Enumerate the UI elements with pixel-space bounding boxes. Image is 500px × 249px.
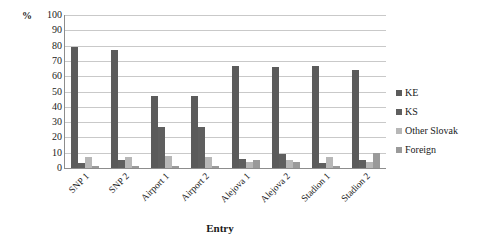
x-axis-tick: Stadion 1 bbox=[299, 171, 332, 204]
y-axis-unit-label: % bbox=[22, 10, 32, 21]
y-axis-tick: 30 bbox=[34, 117, 62, 127]
bar-group bbox=[185, 15, 225, 168]
x-axis-tick-cell: Airport 1 bbox=[144, 169, 184, 215]
bar bbox=[286, 160, 293, 168]
legend-item[interactable]: KS bbox=[396, 107, 458, 117]
bar bbox=[151, 96, 158, 168]
bar-group bbox=[226, 15, 266, 168]
bar bbox=[92, 166, 99, 168]
bar-groups bbox=[65, 15, 386, 168]
y-axis-tick-labels: 1009080706050403020100 bbox=[34, 0, 62, 249]
legend-swatch-icon bbox=[396, 109, 402, 115]
bar bbox=[312, 66, 319, 169]
bar bbox=[232, 66, 239, 169]
legend-item[interactable]: Other Slovak bbox=[396, 126, 458, 136]
bar bbox=[359, 160, 366, 168]
bar bbox=[158, 127, 165, 168]
y-axis-tick: 60 bbox=[34, 71, 62, 81]
bar-group bbox=[65, 15, 105, 168]
bar bbox=[212, 166, 219, 168]
bar bbox=[111, 50, 118, 168]
bar bbox=[326, 157, 333, 168]
bar bbox=[366, 162, 373, 168]
x-axis-tick-cell: Airport 2 bbox=[184, 169, 224, 215]
x-axis-tick: Stadion 2 bbox=[339, 171, 372, 204]
x-axis-tick-cell: Stadion 1 bbox=[305, 169, 345, 215]
x-axis-tick-cell: SNP 1 bbox=[64, 169, 104, 215]
bar bbox=[272, 67, 279, 168]
y-axis-tick: 0 bbox=[34, 163, 62, 173]
bar-group bbox=[346, 15, 386, 168]
bar bbox=[85, 157, 92, 168]
bar bbox=[373, 153, 380, 168]
x-axis-tick: Airport 2 bbox=[180, 171, 212, 203]
bar bbox=[246, 162, 253, 168]
y-axis-tick: 50 bbox=[34, 87, 62, 97]
bar bbox=[165, 156, 172, 168]
bar bbox=[125, 157, 132, 168]
bar bbox=[205, 157, 212, 168]
bar bbox=[172, 166, 179, 168]
bar bbox=[293, 162, 300, 168]
legend-swatch-icon bbox=[396, 128, 402, 134]
legend-item-label: Other Slovak bbox=[405, 126, 458, 136]
legend-item[interactable]: KE bbox=[396, 88, 458, 98]
chart-legend: KEKSOther SlovakForeign bbox=[396, 88, 458, 155]
legend-item[interactable]: Foreign bbox=[396, 145, 458, 155]
plot-area bbox=[64, 15, 386, 169]
y-axis-tick: 10 bbox=[34, 148, 62, 158]
bar bbox=[352, 70, 359, 168]
bar bbox=[198, 127, 205, 168]
bar bbox=[118, 160, 125, 168]
x-axis-tick-cell: Stadion 2 bbox=[345, 169, 385, 215]
bar bbox=[319, 163, 326, 168]
x-axis-tick: Airport 1 bbox=[139, 171, 171, 203]
y-axis-tick: 80 bbox=[34, 41, 62, 51]
legend-item-label: KS bbox=[405, 107, 418, 117]
bar-group bbox=[105, 15, 145, 168]
x-axis-tick-cell: Alejova 2 bbox=[265, 169, 305, 215]
legend-item-label: KE bbox=[405, 88, 418, 98]
y-axis-tick: 70 bbox=[34, 56, 62, 66]
bar-chart: % 1009080706050403020100 SNP 1SNP 2Airpo… bbox=[0, 0, 500, 249]
bar bbox=[253, 160, 260, 168]
y-axis-tick: 90 bbox=[34, 25, 62, 35]
legend-item-label: Foreign bbox=[405, 145, 436, 155]
bar bbox=[78, 163, 85, 168]
bar-group bbox=[266, 15, 306, 168]
bar bbox=[333, 166, 340, 168]
y-axis-tick: 40 bbox=[34, 102, 62, 112]
bar-group bbox=[306, 15, 346, 168]
bar bbox=[191, 96, 198, 168]
legend-swatch-icon bbox=[396, 147, 402, 153]
bar bbox=[71, 47, 78, 168]
legend-swatch-icon bbox=[396, 90, 402, 96]
x-axis-tick-labels: SNP 1SNP 2Airport 1Airport 2Alejova 1Ale… bbox=[64, 169, 385, 215]
bar bbox=[279, 154, 286, 168]
bar bbox=[132, 166, 139, 168]
x-axis-tick: SNP 2 bbox=[107, 171, 131, 195]
y-axis-tick: 20 bbox=[34, 132, 62, 142]
x-axis-tick-cell: SNP 2 bbox=[104, 169, 144, 215]
x-axis-tick-cell: Alejova 1 bbox=[225, 169, 265, 215]
x-axis-tick: SNP 1 bbox=[67, 171, 91, 195]
bar-group bbox=[145, 15, 185, 168]
x-axis-title: Entry bbox=[0, 222, 440, 234]
bar bbox=[239, 159, 246, 168]
y-axis-tick: 100 bbox=[34, 10, 62, 20]
